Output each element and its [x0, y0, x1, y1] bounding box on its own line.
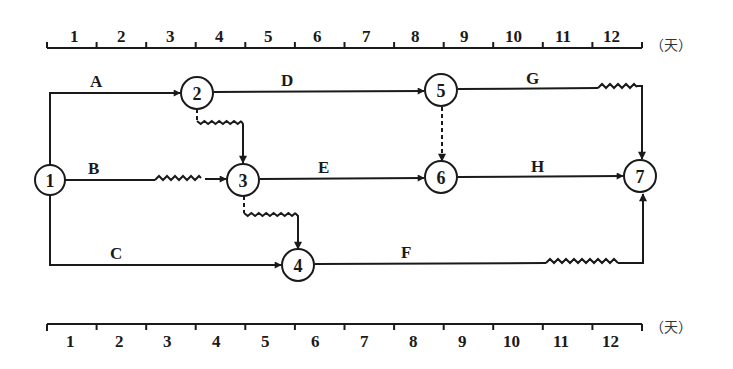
activity-e-arrow [260, 178, 424, 179]
dummy-2-3 [197, 109, 243, 163]
bottom-scale-label-5: 5 [261, 332, 270, 351]
activity-c-label: C [110, 244, 122, 263]
activity-f-connector [618, 194, 643, 263]
bottom-scale-label-3: 3 [163, 332, 172, 351]
bottom-scale-unit-label: （天） [650, 319, 692, 335]
activity-d: D [214, 71, 424, 92]
top-scale-label-7: 7 [362, 27, 371, 46]
node-1: 1 [35, 165, 65, 195]
activity-a-arrow [50, 93, 180, 165]
activity-h-arrow [458, 176, 623, 177]
activity-b-free-float-wave [155, 176, 201, 180]
activity-a: A [50, 72, 180, 165]
activity-h: H [458, 157, 623, 177]
activity-f-label: F [401, 243, 411, 262]
activity-b-label: B [88, 159, 99, 178]
activity-c: C [50, 195, 281, 265]
bottom-scale-label-2: 2 [115, 332, 124, 351]
top-scale-label-5: 5 [264, 27, 273, 46]
top-scale-label-12: 12 [603, 27, 620, 46]
top-scale-label-8: 8 [411, 27, 420, 46]
node-1-label: 1 [46, 171, 55, 191]
bottom-scale-label-12: 12 [602, 332, 619, 351]
top-scale-label-10: 10 [505, 27, 522, 46]
activity-g: G [458, 69, 642, 159]
top-scale-label-2: 2 [117, 27, 126, 46]
activity-e: E [260, 158, 424, 179]
bottom-scale-label-6: 6 [311, 332, 320, 351]
top-scale-label-11: 11 [555, 27, 571, 46]
node-2: 2 [181, 77, 213, 109]
dummy-2-3-free-float-wave [197, 121, 241, 124]
activity-d-arrow [214, 91, 424, 92]
activity-h-label: H [531, 157, 544, 176]
top-scale-label-3: 3 [166, 27, 175, 46]
activity-f-solid [315, 263, 546, 264]
bottom-scale-label-8: 8 [409, 332, 418, 351]
activity-b: B [65, 159, 226, 180]
activity-a-label: A [90, 72, 103, 91]
dummy-3-4 [244, 196, 298, 249]
top-scale-label-9: 9 [460, 27, 469, 46]
node-5: 5 [425, 74, 457, 106]
node-7-label: 7 [636, 167, 645, 187]
activity-d-label: D [281, 71, 293, 90]
activity-g-label: G [526, 69, 539, 88]
top-scale-label-1: 1 [70, 27, 79, 46]
activity-g-connector [637, 86, 642, 159]
top-scale-label-6: 6 [313, 27, 322, 46]
bottom-scale-ticks [47, 324, 642, 331]
node-2-label: 2 [193, 84, 202, 104]
node-7: 7 [624, 160, 656, 192]
node-6-label: 6 [437, 168, 446, 188]
bottom-scale-label-9: 9 [458, 332, 467, 351]
dummy-3-4-free-float-wave [244, 213, 295, 216]
node-6: 6 [425, 161, 457, 193]
node-3: 3 [227, 164, 259, 196]
top-scale-label-4: 4 [215, 27, 224, 46]
bottom-scale-label-7: 7 [360, 332, 369, 351]
node-4: 4 [282, 249, 314, 281]
node-4-label: 4 [294, 256, 303, 276]
bottom-scale-label-4: 4 [212, 332, 221, 351]
bottom-scale-label-10: 10 [503, 332, 520, 351]
activity-f-free-float-wave [546, 259, 618, 263]
top-scale-unit-label: （天） [650, 37, 692, 53]
activity-c-arrow [50, 195, 281, 265]
activity-e-label: E [318, 158, 329, 177]
activity-g-free-float-wave [598, 84, 637, 88]
node-3-label: 3 [239, 171, 248, 191]
network-diagram: 1 2 3 4 5 6 7 8 9 10 11 12 （天） 1 [0, 0, 733, 369]
bottom-scale-label-1: 1 [66, 332, 75, 351]
activity-g-solid [458, 88, 598, 89]
activity-f: F [315, 194, 643, 264]
dummy-3-4-arrow [295, 213, 298, 249]
node-5-label: 5 [437, 81, 446, 101]
dummy-2-3-arrow [241, 121, 243, 163]
bottom-time-scale: 1 2 3 4 5 6 7 8 9 10 11 12 （天） [47, 319, 692, 351]
top-time-scale: 1 2 3 4 5 6 7 8 9 10 11 12 （天） [47, 27, 692, 53]
bottom-scale-label-11: 11 [553, 332, 569, 351]
